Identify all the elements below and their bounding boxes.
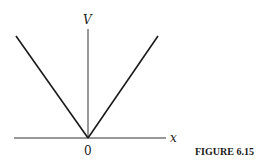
origin-label: 0 [84, 144, 92, 158]
y-axis-label: V [83, 13, 93, 27]
x-axis-label: x [170, 131, 177, 145]
figure-caption: FIGURE 6.15 [195, 146, 254, 157]
right-branch-line [88, 36, 158, 138]
figure-canvas: V x 0 FIGURE 6.15 [0, 0, 277, 165]
left-branch-line [16, 36, 88, 138]
